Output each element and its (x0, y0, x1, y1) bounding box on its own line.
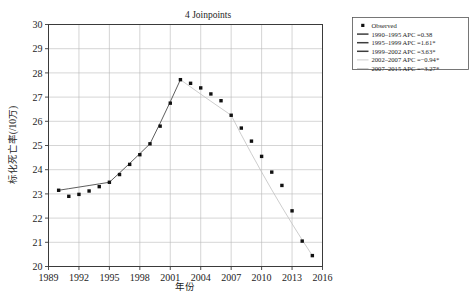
data-point-marker (189, 82, 192, 85)
y-tick-label: 23 (33, 189, 43, 200)
legend-marker-swatch (361, 24, 364, 27)
data-point-marker (128, 163, 131, 166)
data-point-marker (260, 155, 263, 158)
y-tick-label: 28 (33, 68, 43, 79)
data-point-marker (67, 195, 70, 198)
data-point-marker (169, 101, 172, 104)
data-point-marker (199, 86, 202, 89)
data-point-marker (118, 173, 121, 176)
data-point-marker (311, 254, 314, 257)
chart-title: 4 Joinpoints (185, 10, 231, 20)
data-point-marker (240, 126, 243, 129)
y-tick-label: 20 (33, 261, 43, 272)
y-tick-label: 29 (33, 43, 43, 54)
legend-label: 1990–1995 APC =0.38 (372, 31, 433, 38)
x-tick-label: 2013 (282, 272, 302, 283)
y-tick-label: 22 (33, 213, 43, 224)
x-tick-label: 2010 (252, 272, 272, 283)
legend-label: 2002–2007 APC =−0.94* (372, 56, 440, 63)
x-tick-label: 2001 (160, 272, 180, 283)
legend-label: 2007–2015 APC =−3.27* (372, 65, 440, 72)
data-point-marker (57, 189, 60, 192)
chart-legend: Observed1990–1995 APC =0.381995–1999 APC… (353, 18, 469, 72)
y-tick-label: 25 (33, 140, 43, 151)
chart-svg: 4 Joinpoints 198919921995199820012004200… (0, 0, 473, 305)
data-point-marker (77, 193, 80, 196)
data-point-marker (98, 185, 101, 188)
x-tick-label: 1989 (39, 272, 59, 283)
data-point-marker (138, 153, 141, 156)
x-tick-label: 1995 (99, 272, 119, 283)
x-tick-label: 2016 (313, 272, 333, 283)
y-tick-label: 30 (33, 19, 43, 30)
y-tick-label: 21 (33, 237, 43, 248)
data-point-marker (280, 184, 283, 187)
y-tick-label: 26 (33, 116, 43, 127)
data-point-marker (250, 139, 253, 142)
x-axis-title: 年份 (175, 281, 195, 292)
legend-label: 1995–1999 APC =1.61* (372, 39, 436, 46)
data-point-marker (158, 124, 161, 127)
data-point-marker (209, 92, 212, 95)
legend-label: Observed (372, 22, 398, 29)
x-tick-label: 1998 (130, 272, 150, 283)
data-point-marker (87, 189, 90, 192)
data-point-marker (148, 142, 151, 145)
data-point-marker (290, 209, 293, 212)
x-tick-label: 2004 (191, 272, 211, 283)
data-point-marker (219, 99, 222, 102)
x-tick-label: 2007 (221, 272, 241, 283)
joinpoint-regression-chart: 4 Joinpoints 198919921995199820012004200… (0, 0, 473, 305)
data-point-marker (108, 181, 111, 184)
data-point-marker (179, 78, 182, 81)
legend-label: 1999–2002 APC =3.63* (372, 48, 436, 55)
y-tick-label: 27 (33, 92, 43, 103)
y-tick-label: 24 (33, 164, 43, 175)
data-point-marker (229, 114, 232, 117)
x-tick-label: 1992 (69, 272, 89, 283)
data-point-marker (301, 239, 304, 242)
data-point-marker (270, 170, 273, 173)
y-axis-title: 标化死亡率(/10万) (7, 106, 19, 184)
